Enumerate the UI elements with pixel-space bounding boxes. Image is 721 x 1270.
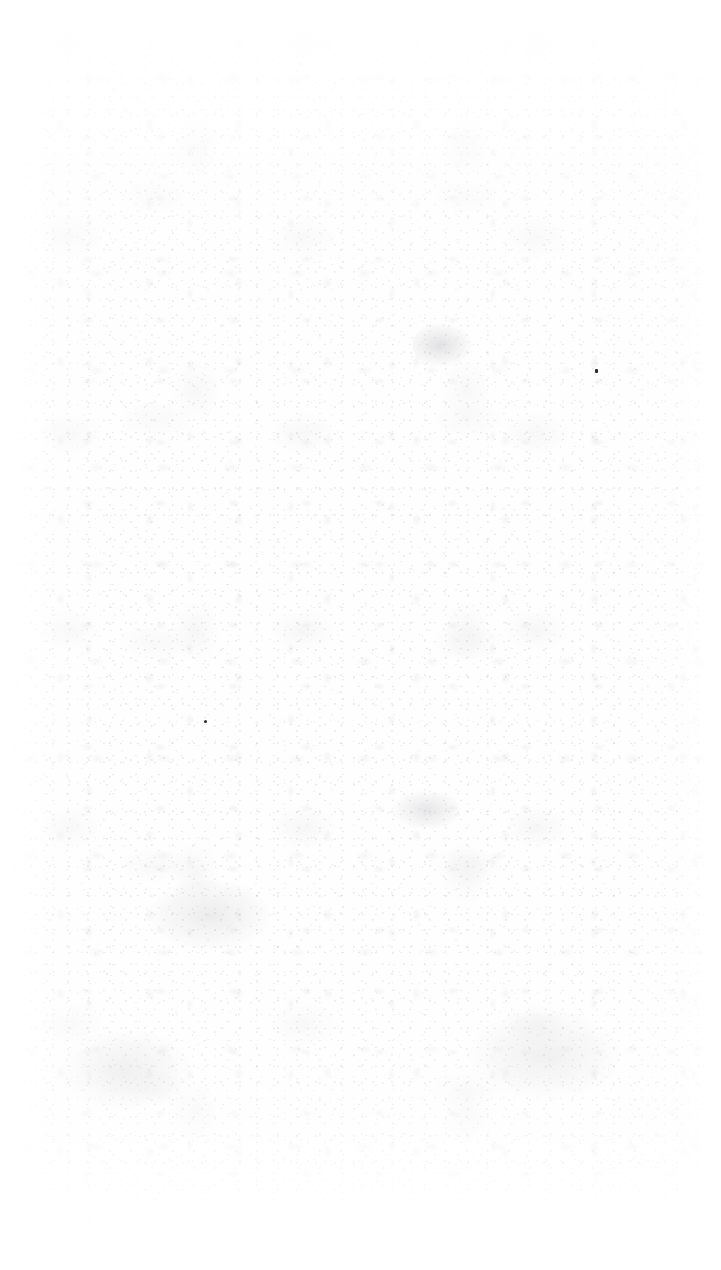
scanned-page <box>0 0 721 1270</box>
ink-speck-upper <box>595 369 598 373</box>
ink-speck-lower <box>204 720 207 723</box>
paper-background <box>0 0 721 1270</box>
